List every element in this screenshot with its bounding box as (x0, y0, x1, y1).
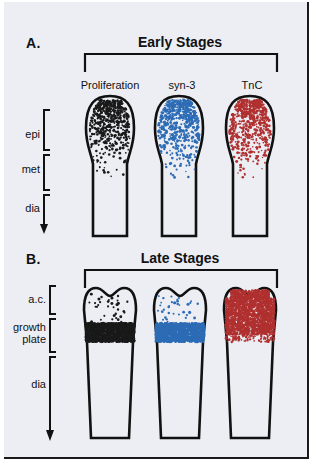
zone-bracket-growth-plate (50, 319, 56, 352)
zone-arrow-dia-b (46, 357, 56, 441)
title-bracket-a (85, 54, 277, 72)
stipple-layer-a (89, 99, 272, 179)
zone-bracket-ac (50, 286, 56, 314)
zone-arrow-dia-a (40, 195, 50, 234)
panel-late-stages: B. Late Stages a.c. growth plate dia (0, 238, 303, 458)
panel-b-graphics (0, 238, 314, 458)
title-bracket-b (85, 270, 277, 288)
zone-bracket-epi (44, 110, 50, 150)
zone-bracket-met (44, 155, 50, 190)
panel-early-stages: A. Early Stages Proliferation syn-3 TnC … (0, 0, 303, 238)
bone-late-black (84, 288, 136, 438)
figure-root: A. Early Stages Proliferation syn-3 TnC … (0, 0, 314, 475)
panel-a-graphics (0, 0, 314, 238)
